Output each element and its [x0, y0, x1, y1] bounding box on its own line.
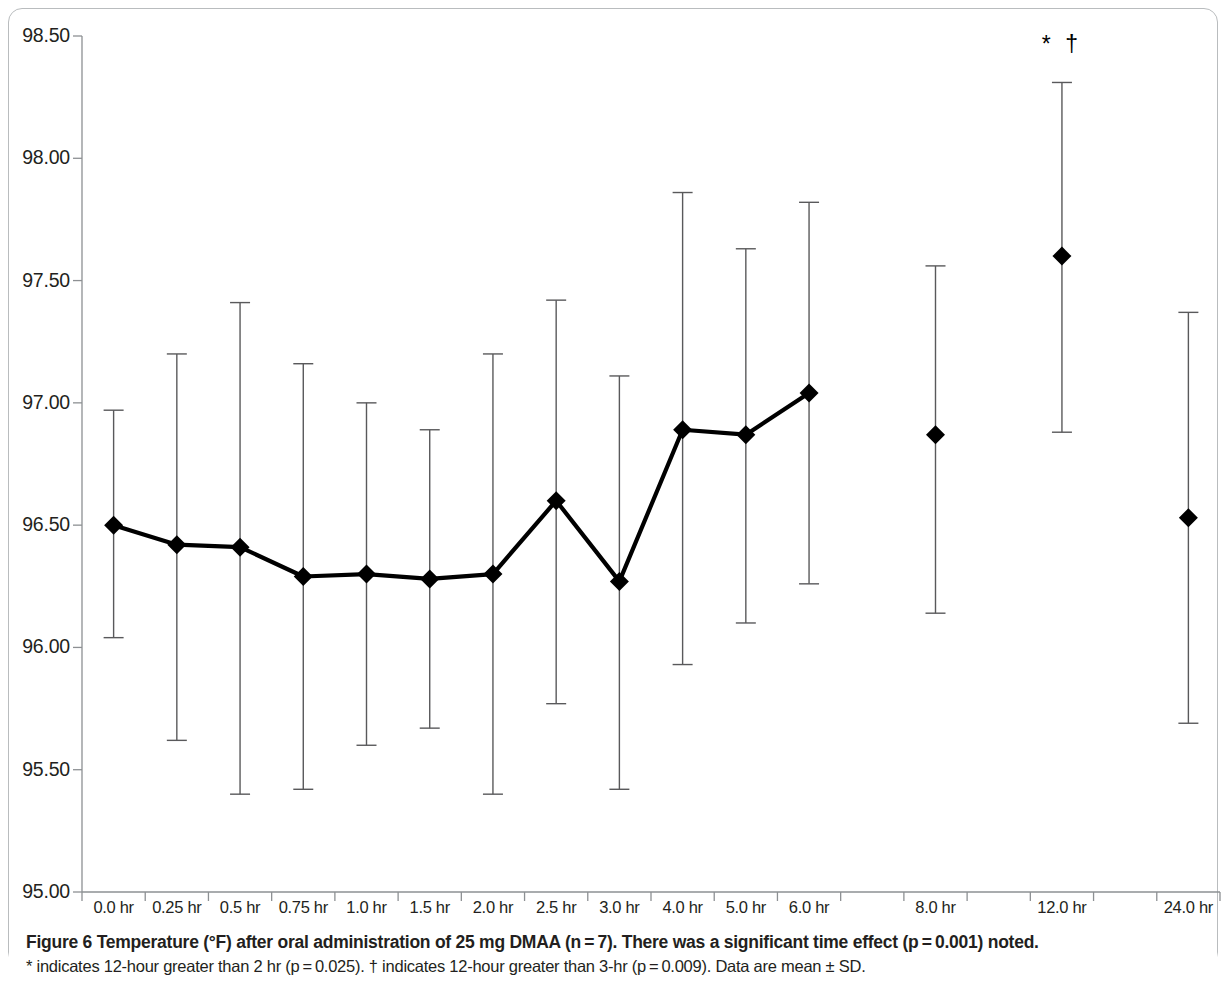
x-axis-tick-label: 6.0 hr — [749, 898, 869, 917]
data-point-marker — [926, 425, 945, 444]
caption-footnote-text: * indicates 12-hour greater than 2 hr (p… — [26, 955, 1216, 978]
data-point-marker — [1052, 247, 1071, 266]
figure-caption: Figure 6 Temperature (°F) after oral adm… — [26, 930, 1216, 978]
y-axis-tick-label: 96.50 — [0, 513, 70, 536]
series-line — [114, 393, 809, 581]
error-bars — [104, 82, 1199, 794]
y-axis-tick-label: 96.00 — [0, 635, 70, 658]
y-axis-tick-label: 98.50 — [0, 24, 70, 47]
significance-annotation: * † — [1002, 31, 1122, 58]
figure-container: 98.5098.0097.5097.0096.5096.0095.5095.00… — [0, 0, 1228, 990]
data-point-marker — [673, 420, 692, 439]
y-axis-tick-label: 95.50 — [0, 758, 70, 781]
y-axis-tick-label: 97.50 — [0, 269, 70, 292]
x-axis-tick-label: 24.0 hr — [1128, 898, 1228, 917]
data-point-marker — [231, 538, 250, 557]
data-point-marker — [104, 516, 123, 535]
y-axis-ticks — [73, 36, 82, 892]
chart-svg — [0, 0, 1228, 990]
axes — [82, 36, 1220, 892]
y-axis-tick-label: 98.00 — [0, 146, 70, 169]
x-axis-tick-label: 12.0 hr — [1002, 898, 1122, 917]
data-point-marker — [294, 567, 313, 586]
data-point-marker — [1179, 508, 1198, 527]
y-axis-tick-label: 97.00 — [0, 391, 70, 414]
x-axis-tick-label: 8.0 hr — [876, 898, 996, 917]
data-point-marker — [167, 535, 186, 554]
data-point-marker — [420, 569, 439, 588]
data-point-marker — [357, 565, 376, 584]
chart-plot-area — [0, 0, 1228, 990]
caption-main-text: Figure 6 Temperature (°F) after oral adm… — [26, 930, 1216, 954]
series-markers — [104, 247, 1198, 591]
